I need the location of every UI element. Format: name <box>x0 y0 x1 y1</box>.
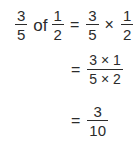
fraction-bar <box>87 69 123 70</box>
equals-sign: = <box>71 62 80 78</box>
fraction-bar <box>52 24 64 25</box>
numerator: 3 × 1 <box>87 53 123 68</box>
fraction-product: 3 × 1 5 × 2 <box>87 53 123 87</box>
fraction-one-half-rhs: 1 2 <box>121 8 133 42</box>
denominator: 5 <box>15 27 27 42</box>
fraction-three-fifths-rhs: 3 5 <box>86 8 98 42</box>
numerator: 3 <box>92 104 104 119</box>
numerator: 1 <box>121 8 133 23</box>
expression-line-1: 3 5 of 1 2 = 3 5 × 1 2 <box>15 7 133 43</box>
equals-sign: = <box>70 17 79 33</box>
fraction-bar <box>86 24 98 25</box>
expression-line-2: = 3 × 1 5 × 2 <box>71 52 123 88</box>
equals-sign: = <box>71 113 80 129</box>
denominator: 2 <box>121 27 133 42</box>
denominator: 5 <box>86 27 98 42</box>
fraction-bar <box>121 24 133 25</box>
denominator: 2 <box>52 27 64 42</box>
denominator: 5 × 2 <box>87 72 123 87</box>
of-word: of <box>33 17 47 34</box>
numerator: 3 <box>86 8 98 23</box>
times-sign: × <box>105 17 114 33</box>
fraction-bar <box>87 120 108 121</box>
denominator: 10 <box>87 123 108 138</box>
fraction-one-half: 1 2 <box>52 8 64 42</box>
numerator: 3 <box>15 8 27 23</box>
numerator: 1 <box>52 8 64 23</box>
fraction-bar <box>15 24 27 25</box>
fraction-result: 3 10 <box>87 104 108 138</box>
expression-line-3: = 3 10 <box>71 103 108 139</box>
fraction-three-fifths: 3 5 <box>15 8 27 42</box>
